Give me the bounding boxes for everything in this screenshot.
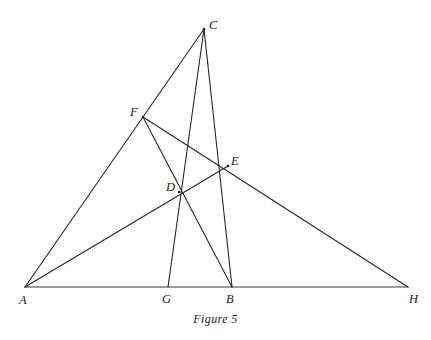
geometry-svg	[0, 0, 431, 340]
vertex-label-C: C	[209, 19, 217, 32]
vertex-dot-F	[142, 116, 145, 119]
segments-group	[25, 29, 408, 287]
vertex-label-D: D	[166, 181, 175, 194]
figure-canvas: A B C D E F G H Figure 5	[0, 0, 431, 340]
vertex-dots-group	[142, 28, 230, 194]
vertex-label-A: A	[19, 294, 27, 307]
vertex-label-H: H	[409, 293, 418, 306]
vertex-label-B: B	[226, 293, 234, 306]
segment-C-B	[204, 29, 232, 287]
segment-C-G	[168, 29, 204, 287]
vertex-label-G: G	[162, 293, 171, 306]
segment-F-H	[143, 117, 408, 287]
segment-A-E	[25, 166, 228, 287]
vertex-dot-C	[203, 28, 206, 31]
figure-caption: Figure 5	[0, 312, 431, 327]
segment-F-B	[143, 117, 232, 287]
vertex-label-F: F	[130, 106, 138, 119]
vertex-dot-D	[178, 191, 181, 194]
vertex-label-E: E	[231, 155, 239, 168]
vertex-dot-E	[227, 165, 230, 168]
segment-A-C	[25, 29, 204, 287]
